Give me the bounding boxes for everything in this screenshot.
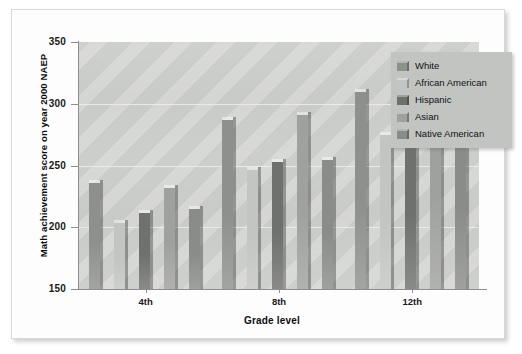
bar-face <box>114 223 125 289</box>
chart-card: 150200250300350 4th8th12th Math achievem… <box>11 9 505 339</box>
bar-side-shadow <box>283 159 286 289</box>
bar-top-highlight <box>297 112 308 115</box>
bar-4th-african-american <box>114 220 128 289</box>
y-axis-line <box>78 41 79 290</box>
legend-swatch <box>397 112 409 122</box>
bar-side-shadow <box>200 206 203 289</box>
y-tick-150 <box>71 289 78 290</box>
legend-label: African American <box>415 77 487 88</box>
bar-12th-white <box>355 89 369 289</box>
legend-swatch <box>397 78 409 88</box>
bar-top-highlight <box>322 157 333 160</box>
legend-item-hispanic: Hispanic <box>397 91 512 108</box>
bar-side-shadow <box>391 132 394 289</box>
bar-top-highlight <box>222 117 233 120</box>
bar-top-highlight <box>89 180 100 183</box>
bar-face <box>322 160 333 289</box>
legend-swatch <box>397 129 409 139</box>
bar-8th-hispanic <box>272 159 286 289</box>
bar-8th-asian <box>297 112 311 289</box>
y-tick-label-150: 150 <box>12 283 66 294</box>
bar-top-highlight <box>164 185 175 188</box>
bar-side-shadow <box>100 180 103 289</box>
bar-top-highlight <box>272 159 283 162</box>
bar-side-shadow <box>366 89 369 289</box>
bar-4th-hispanic <box>139 210 153 289</box>
bar-side-shadow <box>333 157 336 289</box>
y-tick-200 <box>71 227 78 228</box>
bar-8th-white <box>222 117 236 289</box>
bar-top-highlight <box>247 167 258 170</box>
bar-top-highlight <box>189 206 200 209</box>
bar-face <box>380 135 391 289</box>
bar-side-shadow <box>308 112 311 289</box>
bar-face <box>247 170 258 289</box>
legend-item-african-american: African American <box>397 74 512 91</box>
y-axis-title: Math achievement score on year 2000 NAEP <box>38 41 49 271</box>
bar-face <box>164 188 175 289</box>
bar-face <box>272 162 283 289</box>
bar-face <box>189 209 200 289</box>
x-tick-label-12th: 12th <box>377 296 447 307</box>
chart-legend: WhiteAfrican AmericanHispanicAsianNative… <box>391 52 512 148</box>
y-tick-250 <box>71 166 78 167</box>
bar-12th-african-american <box>380 132 394 289</box>
bar-top-highlight <box>139 210 150 213</box>
plot-wrapper: 150200250300350 4th8th12th Math achievem… <box>12 10 506 340</box>
bar-top-highlight <box>114 220 125 223</box>
legend-label: Native American <box>415 128 484 139</box>
x-tick-label-8th: 8th <box>244 296 314 307</box>
bar-side-shadow <box>233 117 236 289</box>
bar-top-highlight <box>355 89 366 92</box>
y-tick-300 <box>71 104 78 105</box>
bar-top-highlight <box>380 132 391 135</box>
bar-face <box>222 120 233 289</box>
x-tick-label-4th: 4th <box>111 296 181 307</box>
legend-label: Hispanic <box>415 94 451 105</box>
figure-canvas: 150200250300350 4th8th12th Math achievem… <box>0 0 522 354</box>
legend-item-native-american: Native American <box>397 125 512 142</box>
bar-face <box>355 92 366 289</box>
bar-4th-asian <box>164 185 178 289</box>
bar-8th-african-american <box>247 167 261 289</box>
legend-swatch <box>397 95 409 105</box>
bar-side-shadow <box>150 210 153 289</box>
bar-8th-native-american <box>322 157 336 289</box>
legend-swatch <box>397 61 409 71</box>
bar-side-shadow <box>175 185 178 289</box>
legend-label: Asian <box>415 111 439 122</box>
bar-face <box>405 124 416 289</box>
bar-side-shadow <box>258 167 261 289</box>
bar-face <box>139 213 150 289</box>
bar-side-shadow <box>125 220 128 289</box>
bar-face <box>297 115 308 289</box>
bar-face <box>89 183 100 289</box>
bar-4th-white <box>89 180 103 289</box>
x-tick-8th <box>279 289 280 293</box>
legend-label: White <box>415 60 439 71</box>
y-tick-350 <box>71 42 78 43</box>
legend-item-white: White <box>397 57 512 74</box>
x-tick-4th <box>146 289 147 293</box>
legend-item-asian: Asian <box>397 108 512 125</box>
x-axis-title: Grade level <box>137 315 407 326</box>
bar-4th-native-american <box>189 206 203 289</box>
x-tick-12th <box>412 289 413 293</box>
